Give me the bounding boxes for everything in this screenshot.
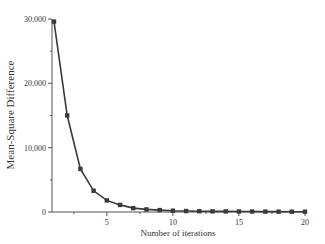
y-tick-label: 30,000 (24, 15, 46, 24)
series-line (54, 22, 305, 212)
axes (52, 19, 305, 212)
y-tick-label: 20,000 (24, 79, 46, 88)
x-tick-label: 10 (169, 218, 177, 227)
y-tick-label: 0 (42, 208, 46, 217)
data-point-marker (263, 209, 267, 213)
y-tick-label: 10,000 (24, 144, 46, 153)
data-point-marker (184, 209, 188, 213)
tick-marks: 010,00020,00030,0005101520 (24, 15, 309, 227)
data-point-marker (250, 209, 254, 213)
data-point-marker (197, 209, 201, 213)
data-point-marker (131, 206, 135, 210)
data-point-marker (290, 209, 294, 213)
data-point-marker (118, 203, 122, 207)
data-point-marker (144, 207, 148, 211)
data-point-marker (210, 209, 214, 213)
x-tick-label: 20 (301, 218, 309, 227)
data-point-marker (171, 209, 175, 213)
data-point-marker (91, 189, 95, 193)
data-point-marker (303, 209, 307, 213)
x-tick-label: 5 (105, 218, 109, 227)
data-point-marker (65, 113, 69, 117)
data-point-marker (237, 209, 241, 213)
x-tick-label: 15 (235, 218, 243, 227)
y-axis-title: Mean-Square Difference (4, 60, 16, 169)
data-point-marker (78, 167, 82, 171)
x-axis-title: Number of iterations (141, 228, 216, 238)
data-point-marker (105, 198, 109, 202)
data-point-marker (52, 19, 56, 23)
data-series (52, 19, 307, 214)
data-point-marker (157, 208, 161, 212)
data-point-marker (224, 209, 228, 213)
data-point-marker (276, 209, 280, 213)
line-chart: 010,00020,00030,0005101520 Number of ite… (0, 0, 325, 244)
